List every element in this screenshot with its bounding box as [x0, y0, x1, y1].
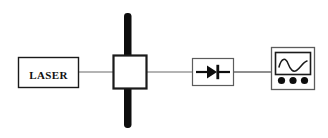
oscilloscope-knobs[interactable] — [278, 77, 308, 84]
knob-icon-2[interactable] — [289, 77, 296, 84]
knob-icon-3[interactable] — [301, 77, 308, 84]
photodiode-detector[interactable] — [193, 59, 234, 86]
diode-cathode-bar — [216, 65, 219, 79]
optical-setup-diagram: LASER — [0, 0, 328, 138]
oscilloscope[interactable] — [272, 48, 315, 90]
modulator-box-outline — [114, 56, 147, 89]
laser-source[interactable]: LASER — [19, 58, 79, 88]
modulator-cell[interactable] — [114, 56, 147, 89]
diagram-canvas: LASER — [0, 0, 328, 138]
laser-label: LASER — [29, 69, 68, 81]
knob-icon-1[interactable] — [278, 77, 285, 84]
